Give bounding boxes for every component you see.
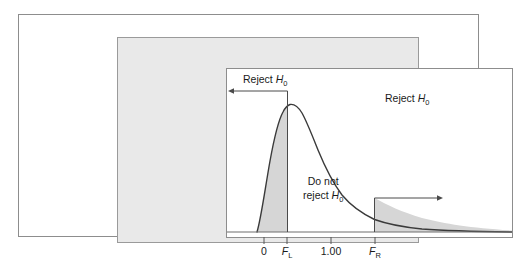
do-not-reject-text: reject bbox=[303, 189, 332, 201]
right-rejection-shading bbox=[375, 198, 513, 232]
do-not-reject-subscript: 0 bbox=[339, 195, 343, 204]
do-not-reject-annotation: Do not reject H0 bbox=[303, 174, 343, 207]
axis-tick-label-f-left: FL bbox=[282, 245, 293, 260]
do-not-reject-line-2: reject H0 bbox=[303, 188, 343, 207]
do-not-reject-line-1: Do not bbox=[303, 174, 343, 188]
figure-outer-frame: Reject H0 Reject H0 Do not reject H0 bbox=[18, 14, 479, 237]
reject-right-text: Reject bbox=[385, 92, 418, 104]
axis-tick-label-f-left-subscript: L bbox=[288, 251, 292, 260]
reject-left-arrowhead bbox=[228, 88, 234, 94]
axis-tick-label-f-right: FR bbox=[369, 245, 381, 260]
reject-right-subscript: 0 bbox=[425, 98, 429, 107]
chart-panel-band: Reject H0 Reject H0 Do not reject H0 bbox=[117, 37, 419, 243]
reject-left-text: Reject bbox=[243, 73, 276, 85]
axis-tick-label-f-right-subscript: R bbox=[376, 251, 381, 260]
plot-area: Reject H0 Reject H0 Do not reject H0 bbox=[226, 68, 513, 238]
reject-right-arrowhead bbox=[437, 195, 443, 201]
axis-tick-label-0-text: 0 bbox=[261, 245, 267, 257]
axis-tick-label-1-00: 1.00 bbox=[321, 245, 341, 257]
reject-right-annotation: Reject H0 bbox=[385, 92, 429, 109]
axis-tick-label-row: 0 FL 1.00 FR bbox=[226, 245, 513, 261]
reject-left-subscript: 0 bbox=[283, 79, 287, 88]
reject-left-annotation: Reject H0 bbox=[243, 73, 287, 90]
axis-tick-label-0: 0 bbox=[261, 245, 267, 257]
axis-tick-label-1-00-text: 1.00 bbox=[321, 245, 341, 257]
f-distribution-plot bbox=[227, 69, 512, 237]
